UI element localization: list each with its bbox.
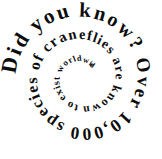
spiral-char: e [112,73,126,80]
spiral-char: v [133,76,155,87]
spiral-char: k [79,0,92,21]
spiral-text-canvas: Didyouknow?Over10,000speciesofcraneflies… [0,0,162,159]
spiral-char: s [23,77,40,84]
spiral-text-figure: Didyouknow?Over10,000speciesofcraneflies… [0,0,162,159]
spiral-char: e [79,26,85,42]
